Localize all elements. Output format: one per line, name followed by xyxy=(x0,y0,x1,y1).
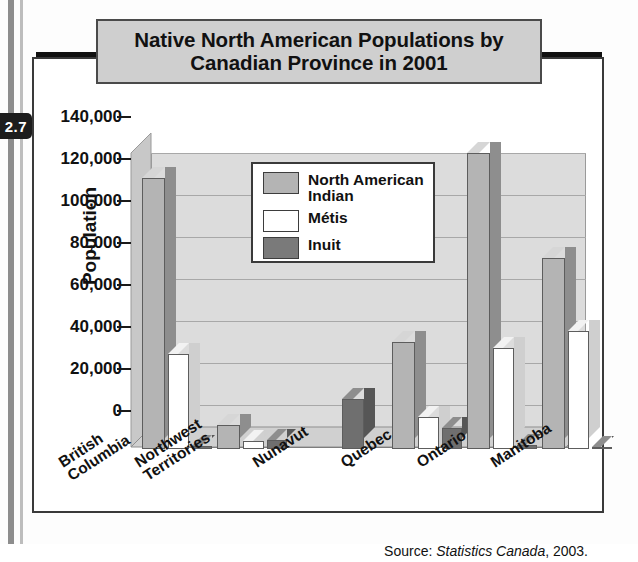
y-tick-mark xyxy=(117,284,131,286)
y-axis-label: Population xyxy=(79,156,101,316)
bar-ontario-metis[interactable] xyxy=(493,348,514,449)
page-number-text: 2.7 xyxy=(5,118,27,135)
bar-manitoba-inuit[interactable] xyxy=(592,447,612,449)
y-tick-mark xyxy=(117,368,131,370)
y-tick-label: 20,000 xyxy=(70,359,122,379)
bar-face xyxy=(217,425,240,449)
bar-face xyxy=(142,178,165,449)
chart-source-note: Source: Statistics Canada, 2003. xyxy=(32,543,588,559)
legend-swatch-icon xyxy=(263,172,299,194)
y-tick-mark xyxy=(117,242,131,244)
legend-label: Métis xyxy=(308,210,348,226)
chart-title-line1: Native North American Populations by xyxy=(134,29,503,52)
bar-face xyxy=(392,342,415,449)
chart-plot-area: 140,000 120,000 100,000 80,000 60,000 40… xyxy=(32,57,604,513)
legend-item-metis[interactable]: Métis xyxy=(263,210,433,232)
legend-swatch-icon xyxy=(263,237,299,259)
bar-northwest-territories-north-american-indian[interactable] xyxy=(217,425,240,449)
page-number-tab: 2.7 xyxy=(0,113,32,139)
bar-ontario-north-american-indian[interactable] xyxy=(467,153,490,449)
y-tick-mark xyxy=(117,158,131,160)
bar-face xyxy=(568,331,589,449)
chart-legend: North American Indian Métis Inuit xyxy=(251,162,435,263)
page-left-rule xyxy=(8,0,14,544)
legend-swatch-icon xyxy=(263,210,299,232)
y-tick-mark xyxy=(117,410,131,412)
source-prefix: Source: xyxy=(384,543,436,559)
legend-label: Inuit xyxy=(308,237,341,253)
source-suffix: , 2003. xyxy=(545,543,588,559)
y-tick-mark xyxy=(117,116,131,118)
bar-quebec-north-american-indian[interactable] xyxy=(392,342,415,449)
y-tick-label: 140,000 xyxy=(61,107,122,127)
bar-face xyxy=(467,153,490,449)
bar-british-columbia-north-american-indian[interactable] xyxy=(142,178,165,449)
bar-manitoba-metis[interactable] xyxy=(568,331,589,449)
legend-item-inuit[interactable]: Inuit xyxy=(263,237,433,259)
y-tick-mark xyxy=(117,200,131,202)
bar-face xyxy=(592,447,612,449)
y-tick-label: 40,000 xyxy=(70,317,122,337)
bar-side xyxy=(589,320,600,438)
bar-side xyxy=(514,337,525,438)
legend-label: North American Indian xyxy=(308,172,426,205)
source-publisher: Statistics Canada xyxy=(436,543,545,559)
y-tick-mark xyxy=(117,326,131,328)
page-left-rule-thin xyxy=(20,0,23,544)
bar-face xyxy=(493,348,514,449)
legend-item-north-american-indian[interactable]: North American Indian xyxy=(263,172,433,205)
